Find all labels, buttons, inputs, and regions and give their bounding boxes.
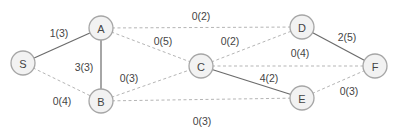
- edge-c-d: [201, 27, 302, 66]
- edge-a-c: [101, 28, 201, 66]
- edge-label-c-f: 0(4): [291, 47, 310, 59]
- edge-label-a-d: 0(2): [192, 10, 211, 22]
- node-s: S: [11, 51, 35, 75]
- edge-c-e: [201, 66, 302, 98]
- edge-label-e-f: 0(3): [340, 85, 359, 97]
- edge-label-a-b: 3(3): [75, 61, 94, 73]
- edge-b-c: [101, 66, 201, 101]
- node-f: F: [363, 54, 387, 78]
- edge-b-e: [101, 98, 302, 101]
- node-label-f: F: [372, 61, 379, 73]
- edge-label-s-b: 0(4): [53, 95, 72, 107]
- node-e: E: [290, 86, 314, 110]
- node-d: D: [290, 15, 314, 39]
- node-label-c: C: [197, 61, 205, 73]
- edge-label-b-c: 0(3): [120, 72, 139, 84]
- node-label-d: D: [298, 22, 306, 34]
- edge-label-c-e: 4(2): [260, 72, 279, 84]
- node-label-e: E: [298, 93, 305, 105]
- edge-label-a-c: 0(5): [154, 35, 173, 47]
- flow-network-diagram: 1(3)0(4)3(3)0(2)0(5)0(3)0(3)0(2)0(4)4(2)…: [0, 0, 395, 131]
- edge-label-c-d: 0(2): [221, 35, 240, 47]
- edge-label-b-e: 0(3): [193, 115, 212, 127]
- node-b: B: [89, 89, 113, 113]
- node-c: C: [189, 54, 213, 78]
- edge-label-s-a: 1(3): [50, 27, 69, 39]
- node-a: A: [89, 16, 113, 40]
- node-label-s: S: [19, 58, 26, 70]
- edge-label-d-f: 2(5): [338, 31, 357, 43]
- edge-a-d: [101, 27, 302, 28]
- node-label-b: B: [97, 96, 104, 108]
- node-label-a: A: [97, 23, 105, 35]
